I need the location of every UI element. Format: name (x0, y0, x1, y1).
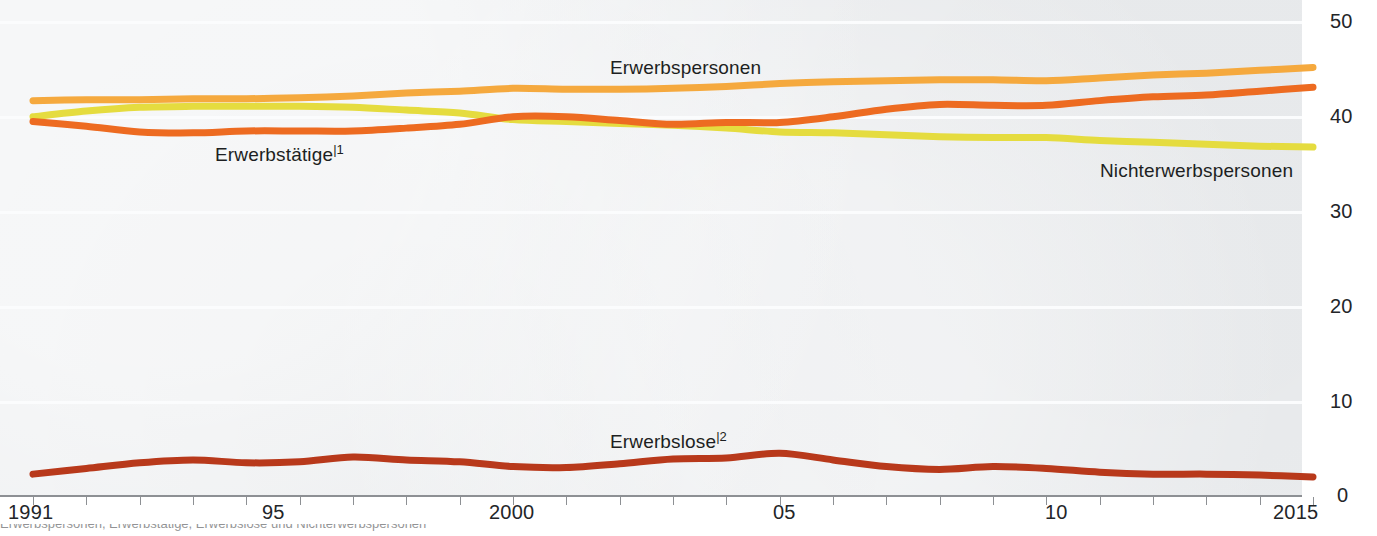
x-axis-tick (566, 497, 567, 505)
x-tick-label-1991: 1991 (8, 501, 53, 524)
x-tick-label-05: 05 (773, 501, 796, 524)
series-line-erwerbslose (33, 453, 1313, 477)
y-tick-label-50: 50 (1330, 10, 1353, 33)
x-tick-label-2015: 2015 (1273, 501, 1318, 524)
series-label-erwerbslose-footnote: |2 (716, 429, 727, 444)
x-axis-tick (246, 497, 247, 505)
x-tick-label-10: 10 (1045, 501, 1068, 524)
x-tick-label-2000: 2000 (489, 501, 534, 524)
y-tick-label-30: 30 (1330, 200, 1353, 223)
series-label-erwerbspersonen: Erwerbspersonen (610, 57, 761, 79)
y-tick-label-10: 10 (1330, 390, 1353, 413)
x-axis-tick (460, 497, 461, 505)
x-axis-tick (300, 497, 301, 505)
x-axis-tick (620, 497, 621, 505)
series-label-nichterwerbspersonen-text: Nichterwerbspersonen (1100, 160, 1293, 181)
x-axis-tick (406, 497, 407, 505)
x-axis-line (0, 495, 1302, 497)
x-axis-tick (726, 497, 727, 505)
x-axis-tick (1153, 497, 1154, 505)
x-axis-tick (353, 497, 354, 505)
series-line-erwerbstaetige (33, 87, 1313, 133)
x-axis-tick (1100, 497, 1101, 505)
footnote-strip-text: Erwerbspersonen, Erwerbstätige, Erwerbsl… (0, 524, 426, 531)
x-axis-tick (833, 497, 834, 505)
series-label-erwerbslose-text: Erwerbslose (610, 431, 716, 452)
y-tick-label-40: 40 (1330, 105, 1353, 128)
y-tick-label-20: 20 (1330, 295, 1353, 318)
x-axis-tick (86, 497, 87, 505)
x-axis-tick (673, 497, 674, 505)
series-label-erwerbstaetige-footnote: |1 (333, 142, 344, 157)
footnote-strip: Erwerbspersonen, Erwerbstätige, Erwerbsl… (0, 524, 700, 536)
x-axis-tick (1260, 497, 1261, 505)
series-label-nichterwerbspersonen: Nichterwerbspersonen (1100, 160, 1293, 182)
chart-container: 50 40 30 20 10 0 1991 95 2000 05 10 2015… (0, 0, 1377, 536)
series-label-erwerbslose: Erwerbslose|2 (610, 429, 727, 453)
series-label-erwerbstaetige-text: Erwerbstätige (215, 144, 333, 165)
series-label-erwerbspersonen-text: Erwerbspersonen (610, 57, 761, 78)
y-tick-label-0: 0 (1337, 484, 1348, 507)
x-tick-label-95: 95 (262, 501, 285, 524)
x-axis-tick (993, 497, 994, 505)
x-axis-tick (193, 497, 194, 505)
x-axis-tick (140, 497, 141, 505)
x-axis-tick (886, 497, 887, 505)
series-label-erwerbstaetige: Erwerbstätige|1 (215, 142, 344, 166)
x-axis-tick (1206, 497, 1207, 505)
x-axis-tick (940, 497, 941, 505)
